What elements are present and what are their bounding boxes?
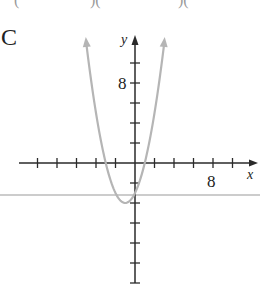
y-tick-label-8: 8 [118, 74, 127, 93]
x-axis-label: x [246, 167, 254, 182]
axes [19, 35, 258, 283]
curve-arrow-left-icon [83, 37, 91, 47]
parabola-curve [83, 37, 168, 203]
parabola-path [86, 43, 164, 203]
x-tick-label-8: 8 [207, 172, 216, 191]
parabola-graph: x y 8 8 [0, 0, 260, 303]
curve-arrow-right-icon [160, 37, 168, 47]
y-axis-label: y [119, 32, 128, 47]
x-axis-arrow-icon [249, 160, 258, 167]
y-axis-arrow-icon [132, 35, 139, 45]
